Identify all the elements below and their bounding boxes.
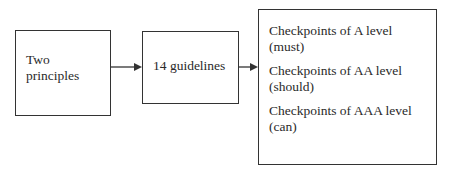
checkpoints-box: Checkpoints of A level (must) Checkpoint… <box>258 9 437 165</box>
checkpoint-a-line1: Checkpoints of A level <box>269 23 392 39</box>
guidelines-box: 14 guidelines <box>142 31 239 104</box>
checkpoint-aaa-line2: (can) <box>269 119 297 135</box>
guidelines-label: 14 guidelines <box>153 58 225 74</box>
arrow-guidelines-to-checkpoints <box>238 61 260 73</box>
two-principles-box: Two principles <box>15 30 111 116</box>
two-principles-line2: principles <box>26 68 79 84</box>
checkpoint-aaa-line1: Checkpoints of AAA level <box>269 103 412 119</box>
checkpoint-a-line2: (must) <box>269 39 304 55</box>
arrow-principles-to-guidelines <box>110 61 144 73</box>
checkpoint-aa-line2: (should) <box>269 79 314 95</box>
two-principles-line1: Two <box>26 52 50 68</box>
checkpoint-aa-line1: Checkpoints of AA level <box>269 63 402 79</box>
